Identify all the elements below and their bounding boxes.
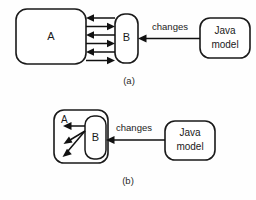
panel-b-edge-changes-label: changes: [116, 122, 152, 133]
diagram-canvas: A B Java model: [0, 0, 256, 200]
panel-a-node-java-model-label-line2: model: [211, 39, 238, 50]
panel-b-caption: (b): [122, 175, 134, 186]
panel-a-edge-1: [86, 14, 115, 21]
panel-a: A B Java model: [16, 9, 250, 86]
panel-a-node-a-label: A: [47, 30, 55, 42]
panel-a-edge-2: [86, 23, 115, 30]
panel-a-edge-5: [86, 48, 115, 55]
panel-a-caption: (a): [123, 75, 135, 86]
panel-a-edge-6: [86, 57, 115, 64]
panel-a-edge-3: [86, 31, 115, 38]
panel-a-edge-4: [86, 40, 115, 47]
figure-root: A B Java model: [0, 0, 256, 200]
panel-a-edge-changes-label: changes: [152, 21, 188, 32]
panel-b-node-java-model-label-line1: Java: [179, 127, 201, 138]
panel-b-node-java-model-label-line2: model: [176, 141, 203, 152]
panel-b-edge-changes: [106, 136, 165, 144]
panel-a-node-java-model-label-line1: Java: [214, 25, 236, 36]
panel-a-edge-changes: [138, 34, 200, 42]
panel-b-node-b-label: B: [92, 131, 99, 143]
panel-b-node-a-label: A: [61, 114, 68, 125]
panel-b: A B Java model: [54, 110, 215, 186]
panel-a-node-b-label: B: [123, 31, 130, 43]
